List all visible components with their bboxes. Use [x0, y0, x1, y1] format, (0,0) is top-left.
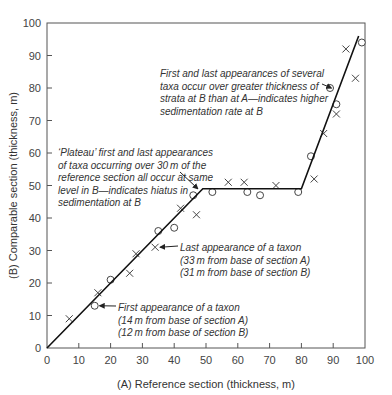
y-tick-label: 90	[29, 50, 41, 62]
first-appearance-marker	[358, 39, 365, 46]
first-appearance-marker	[327, 85, 334, 92]
annotation-text-line: taxa occur over greater thickness of	[160, 81, 320, 92]
x-tick-label: 30	[136, 354, 148, 366]
last-appearance-marker	[342, 46, 349, 53]
first-appearance-marker	[91, 302, 98, 309]
x-tick-label: 20	[104, 354, 116, 366]
annotation-text-line: (33 m from base of section A)	[180, 255, 310, 266]
annotation-text-line: sedimentation at B	[58, 197, 141, 208]
x-tick-label: 100	[356, 354, 374, 366]
annotation-text-line: (31 m from base of section B)	[180, 267, 310, 278]
last-appearance-marker	[193, 211, 200, 218]
annotation-last-appearance: Last appearance of a taxon(33 m from bas…	[160, 242, 310, 278]
annotation-text-line: First and last appearances of several	[160, 68, 325, 79]
y-tick-label: 80	[29, 82, 41, 94]
y-tick-label: 70	[29, 115, 41, 127]
annotation-text-line: (14 m from base of section A)	[118, 315, 248, 326]
annotation-text-line: Last appearance of a taxon	[180, 242, 302, 253]
x-tick-label: 80	[295, 354, 307, 366]
x-tick-label: 10	[73, 354, 85, 366]
last-appearance-marker	[126, 270, 133, 277]
last-appearance-marker	[241, 179, 248, 186]
y-tick-label: 10	[29, 310, 41, 322]
first-appearance-marker	[257, 192, 264, 199]
y-tick-label: 30	[29, 245, 41, 257]
y-tick-label: 50	[29, 180, 41, 192]
y-axis-title: (B) Comparable section (thickness, m)	[7, 92, 19, 279]
annotation-text-line: ‘Plateau’ first and last appearances	[58, 147, 213, 158]
annotation-plateau: ‘Plateau’ first and last appearancesof t…	[58, 147, 214, 208]
annotation-first-appearance: First appearance of a taxon(14 m from ba…	[100, 302, 249, 338]
last-appearance-marker	[352, 75, 359, 82]
annotation-text-line: level in B—indicates hiatus in	[58, 185, 189, 196]
annotation-text-line: strata at B than at A—indicates higher	[160, 93, 329, 104]
last-appearance-marker	[66, 315, 73, 322]
x-tick-label: 50	[200, 354, 212, 366]
x-tick-label: 70	[263, 354, 275, 366]
correlation-chart: 0102030405060708090100010203040506070809…	[0, 0, 392, 395]
last-appearance-marker	[311, 176, 318, 183]
y-tick-label: 40	[29, 212, 41, 224]
x-tick-label: 0	[44, 354, 50, 366]
last-appearance-marker	[333, 111, 340, 118]
y-tick-label: 100	[23, 17, 41, 29]
annotation-text-line: First appearance of a taxon	[118, 302, 240, 313]
first-appearance-marker	[171, 224, 178, 231]
y-tick-label: 20	[29, 277, 41, 289]
annotation-text-line: of taxa occurring over 30 m of the	[58, 160, 207, 171]
x-tick-label: 90	[327, 354, 339, 366]
annotation-text-line: (12 m from base of section B)	[118, 327, 248, 338]
last-appearance-marker	[225, 179, 232, 186]
plot-area: 0102030405060708090100010203040506070809…	[7, 17, 374, 390]
annotation-sedimentation: First and last appearances of severaltax…	[160, 68, 331, 117]
x-tick-label: 40	[168, 354, 180, 366]
annotation-arrow	[160, 246, 178, 247]
x-axis-title: (A) Reference section (thickness, m)	[117, 378, 295, 390]
y-tick-label: 0	[35, 342, 41, 354]
annotation-text-line: sedimentation rate at B	[160, 106, 263, 117]
last-appearance-marker	[152, 244, 159, 251]
y-tick-label: 60	[29, 147, 41, 159]
x-tick-label: 60	[232, 354, 244, 366]
